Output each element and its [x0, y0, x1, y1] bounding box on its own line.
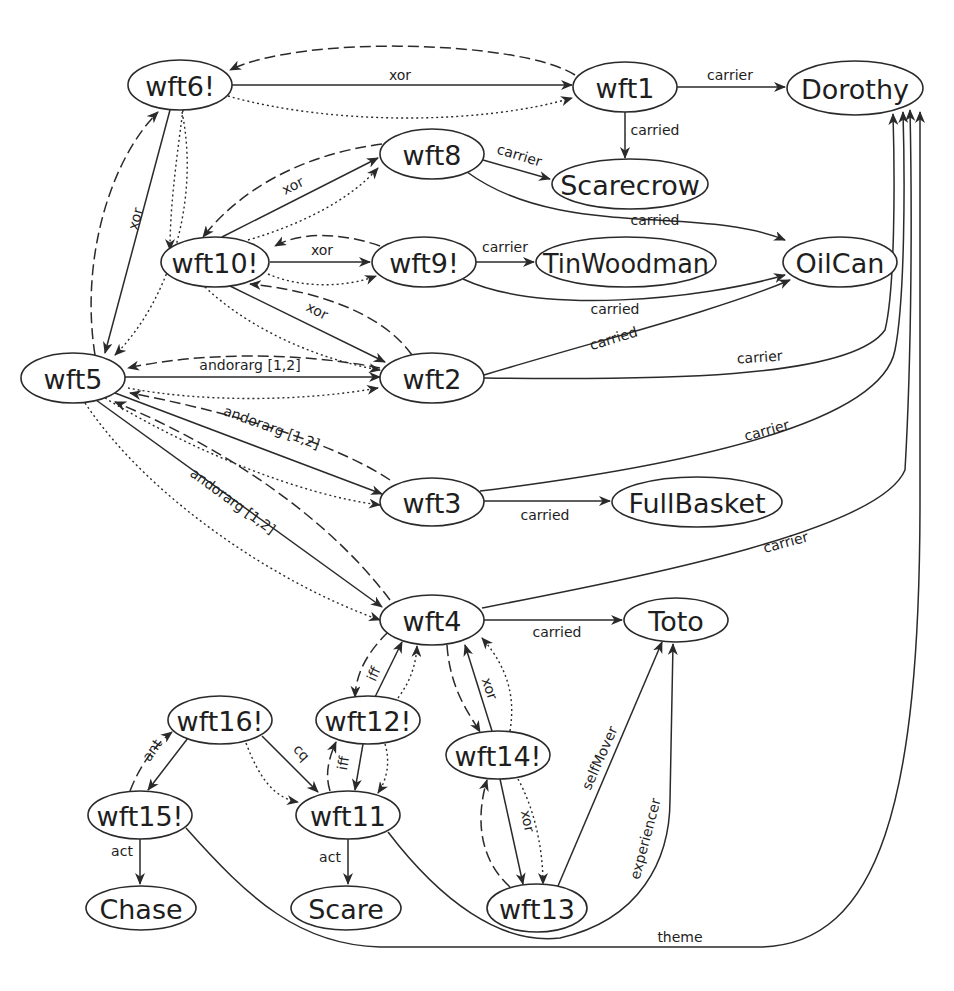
edge-wft4-to-wft14-dashed — [447, 645, 480, 732]
node-wft10: wft10! — [161, 237, 269, 287]
edge-wft4-to-wft12-dashed — [355, 632, 388, 697]
edge-label: andorarg [1,2] — [187, 465, 278, 537]
node-scarecrow: Scarecrow — [552, 159, 708, 209]
edge-label: carried — [631, 212, 680, 228]
edge-label: act — [111, 843, 133, 859]
edges-layer — [85, 46, 920, 947]
node-label: Scare — [308, 894, 384, 925]
edge-wft2-to-wft10-dashed — [250, 284, 412, 355]
node-label: wft15! — [97, 801, 184, 832]
edge-label: cq — [290, 741, 313, 764]
edge-label: andorarg [1,2] — [199, 357, 300, 373]
node-tinwoodman: TinWoodman — [536, 237, 716, 287]
edge-label: carrier — [707, 67, 753, 83]
node-label: wft2 — [403, 364, 462, 395]
edge-wft10-to-wft8-dotted — [248, 168, 378, 240]
node-wft12: wft12! — [316, 696, 420, 744]
node-wft6: wft6! — [128, 60, 232, 110]
edge-wft10-to-wft8-xor — [222, 158, 378, 237]
edge-wft6-to-wft5-dotted — [115, 112, 187, 355]
node-wft1: wft1 — [573, 62, 677, 112]
edge-label: xor — [518, 808, 538, 833]
node-wft14: wft14! — [446, 731, 550, 779]
edge-wft3-to-wft5-dashed — [130, 393, 390, 480]
edge-label: xor — [389, 67, 411, 83]
node-label: wft8 — [403, 140, 462, 171]
edge-label: carried — [521, 507, 570, 523]
node-label: wft13 — [499, 894, 575, 925]
edge-label: carried — [533, 624, 582, 640]
node-label: wft12! — [325, 706, 412, 737]
edge-label: iff — [363, 664, 383, 683]
node-oilcan: OilCan — [783, 237, 897, 287]
node-scare: Scare — [291, 886, 401, 930]
node-label: Dorothy — [801, 74, 909, 105]
edge-label: andorarg [1,2] — [221, 402, 322, 452]
node-wft5: wft5 — [21, 353, 125, 403]
node-label: wft1 — [596, 73, 655, 104]
node-toto: Toto — [624, 598, 728, 642]
node-wft13: wft13 — [487, 884, 587, 932]
node-label: wft6! — [145, 71, 215, 102]
edge-label: carried — [631, 122, 680, 138]
node-label: wft10! — [172, 248, 259, 279]
node-fullbasket: FullBasket — [612, 477, 782, 527]
node-wft3: wft3 — [380, 478, 484, 526]
node-label: OilCan — [796, 248, 885, 279]
edge-label: carried — [591, 301, 640, 317]
edge-label: carried — [588, 323, 639, 353]
edge-wft12-to-wft11-iff — [355, 744, 363, 790]
edge-wft5-to-wft2-dotted — [128, 388, 378, 399]
edge-label: carrier — [762, 528, 811, 555]
node-chase: Chase — [86, 886, 196, 930]
node-wft11: wft11 — [296, 791, 400, 839]
edge-label: carrier — [482, 239, 528, 255]
edge-label: xor — [279, 173, 306, 197]
node-wft16: wft16! — [168, 696, 272, 744]
edge-label: selfMover — [578, 723, 620, 792]
node-label: wft11 — [310, 801, 386, 832]
edge-label: experiencer — [627, 796, 664, 881]
edge-wft5-to-wft4-dotted — [85, 403, 380, 620]
edge-wft12-to-wft11-dotted — [378, 744, 388, 793]
node-label: wft14! — [455, 741, 542, 772]
semantic-network-diagram: wft6!wft1Dorothywft8Scarecrowwft10!wft9!… — [0, 0, 954, 991]
node-label: Toto — [647, 606, 704, 637]
node-label: wft16! — [177, 706, 264, 737]
node-label: wft4 — [403, 606, 462, 637]
node-label: FullBasket — [628, 488, 765, 519]
edge-wft14-to-wft13-xor — [500, 779, 523, 884]
edge-label: ant — [139, 736, 166, 764]
edge-wft10-to-wft9-dotted — [268, 274, 376, 285]
node-label: wft3 — [403, 488, 462, 519]
edge-wft6-to-wft10-dotted — [170, 110, 183, 250]
edge-label: carrier — [743, 416, 792, 443]
edge-label: iff — [334, 755, 352, 771]
node-wft4: wft4 — [380, 595, 484, 645]
node-label: Chase — [99, 894, 182, 925]
edge-label: carrier — [736, 347, 783, 366]
node-label: wft9! — [389, 248, 459, 279]
edge-wft16-to-wft11-cq — [262, 736, 318, 792]
node-wft8: wft8 — [380, 129, 484, 179]
nodes-layer: wft6!wft1Dorothywft8Scarecrowwft10!wft9!… — [21, 60, 923, 932]
node-label: wft5 — [44, 364, 103, 395]
edge-label: theme — [657, 929, 702, 945]
edge-wft6-to-wft1-dotted — [228, 96, 572, 118]
node-label: Scarecrow — [560, 170, 700, 201]
edge-label: act — [319, 849, 341, 865]
node-wft9: wft9! — [372, 237, 476, 287]
edge-label: xor — [311, 242, 333, 258]
node-dorothy: Dorothy — [787, 61, 923, 115]
node-label: TinWoodman — [542, 248, 709, 279]
edge-wft12-to-wft4-dotted — [398, 646, 417, 698]
node-wft2: wft2 — [380, 353, 484, 403]
edge-label: xor — [304, 298, 331, 322]
edge-wft16-to-wft11-dotted — [246, 743, 298, 802]
edge-wft4-to-wft5-dashed — [115, 402, 390, 600]
node-wft15: wft15! — [88, 791, 192, 839]
edge-wft10-to-wft2-xor — [230, 286, 385, 362]
edge-label: xor — [125, 206, 146, 232]
edge-wft5-to-wft6-dashed — [91, 112, 158, 355]
edge-wft13-to-wft14-dashed — [481, 780, 510, 887]
